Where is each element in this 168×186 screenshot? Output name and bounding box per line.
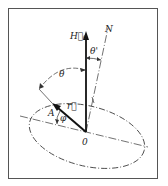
field-vector-label: H⃗₀	[70, 32, 87, 41]
theta-prime-arrowhead-icon-2	[97, 57, 101, 61]
phi-label: φ	[60, 114, 66, 123]
diagram-canvas	[0, 0, 168, 186]
normal-axis-line	[86, 28, 108, 132]
r-extension-line	[39, 89, 52, 103]
theta-label: θ	[59, 70, 64, 79]
orbit-ellipse	[22, 93, 151, 180]
r-vector-label: r⃗	[67, 102, 77, 111]
origin-label: 0	[82, 138, 88, 147]
phi-arrowhead-icon	[55, 119, 59, 124]
point-a-label: A	[48, 109, 55, 118]
theta-prime-label: θ'	[90, 47, 98, 56]
normal-label: N	[105, 25, 113, 34]
